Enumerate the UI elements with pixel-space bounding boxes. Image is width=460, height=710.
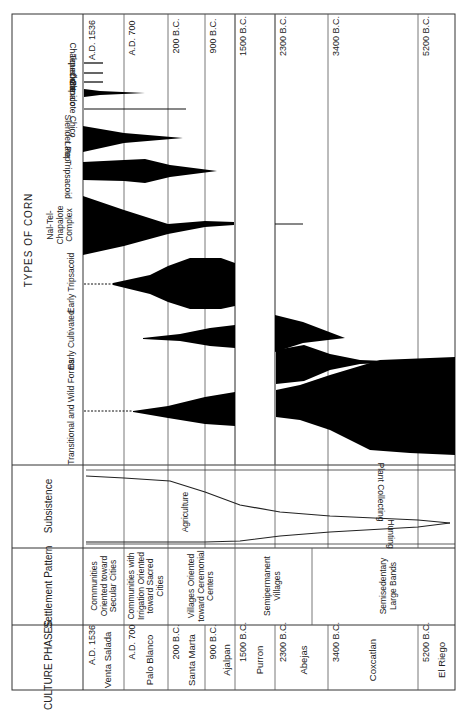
subsistence-label-hunting: Hunting [385, 519, 395, 548]
phase-name-el-riego: El Riego [437, 642, 448, 678]
phase-date-santa-marta: 200 B.C. [171, 624, 182, 659]
column-header-settlement-pattern: Settlement Pattern [43, 546, 54, 629]
phase-name-purron: Purron [255, 646, 266, 675]
corn-label-chalqueno: Chalqueño [67, 42, 77, 83]
phase-name-abejas: Abejas [299, 645, 310, 674]
corn-conico-shape [84, 89, 145, 97]
corn-label-nal-tel-chapalote: Nal-Tel-Chapalote Complex [46, 195, 75, 255]
corn-label-early-tripsacoid: Early Tripsacoid [67, 253, 77, 313]
phase-name-coxcatlan: Coxcatlan [368, 639, 379, 681]
diagram-title: TYPES OF CORN [23, 193, 34, 288]
phase-name-palo-blanco: Palo Blanco [145, 635, 156, 686]
top-date-200bc: 200 B.C. [171, 18, 182, 53]
phase-date-abejas: 2300 B.C. [278, 622, 289, 662]
phase-date-palo-blanco: A.D. 700 [127, 624, 138, 659]
subsistence-gridlines [86, 465, 455, 548]
corn-late-tripsacoid-shape [83, 159, 217, 183]
agriculture-upper-curve [86, 476, 450, 523]
top-date-2300bc: 2300 B.C. [278, 16, 289, 56]
settlement-secular-cities: Communities Oriented toward Secular Citi… [90, 551, 119, 621]
phase-name-santa-marta: Santa Marta [187, 634, 198, 686]
phase-date-purron: 1500 B.C. [238, 622, 249, 662]
subsistence-label-agriculture: Agriculture [181, 492, 191, 533]
corn-label-early-cultivated: Early Cultivated [67, 310, 77, 370]
phase-date-el-riego: 5200 B.C. [421, 622, 432, 662]
top-date-5200bc: 5200 B.C. [421, 16, 432, 56]
corn-label-transitional: Transitional and Wild Forms [67, 359, 77, 465]
top-date-900bc: 900 B.C. [208, 18, 219, 53]
gap-band [236, 15, 274, 464]
top-date-ad700: A.D. 700 [127, 20, 138, 55]
column-header-subsistence: Subsistence [43, 479, 54, 533]
corn-early-cultivated-shape [143, 325, 235, 348]
corn-transitional-wild-shape [133, 392, 235, 426]
corn-nal-tel-chapalote-shape [83, 196, 234, 255]
phase-date-venta-salada: A.D. 1536 [87, 625, 98, 665]
settlement-semisedentary-bands: Semisedentary Large Bands [379, 548, 398, 624]
settlement-semipermanent-villages: Semipermanent Villages [263, 548, 282, 624]
phase-date-coxcatlan: 3400 B.C. [331, 622, 342, 662]
top-date-ad1536: A.D. 1536 [87, 20, 98, 60]
column-header-culture-phases: CULTURE PHASES [43, 620, 54, 710]
corn-early-tripsacoid-shape [113, 258, 235, 309]
subsistence-label-plant-collecting: Plant Collecting [375, 462, 385, 521]
top-date-3400bc: 3400 B.C. [331, 16, 342, 56]
settlement-sacred-cities: Communities with Irrigation Oriented tow… [127, 548, 165, 624]
top-date-1500bc: 1500 B.C. [238, 16, 249, 56]
phase-name-venta-salada: Venta Salada [103, 632, 114, 689]
phase-name-ajalpan: Ajalpan [222, 644, 233, 676]
phase-date-ajalpan: 900 B.C. [208, 624, 219, 659]
settlement-ceremonial-centers: Villages Oriented toward Ceremonial Cent… [187, 548, 216, 624]
